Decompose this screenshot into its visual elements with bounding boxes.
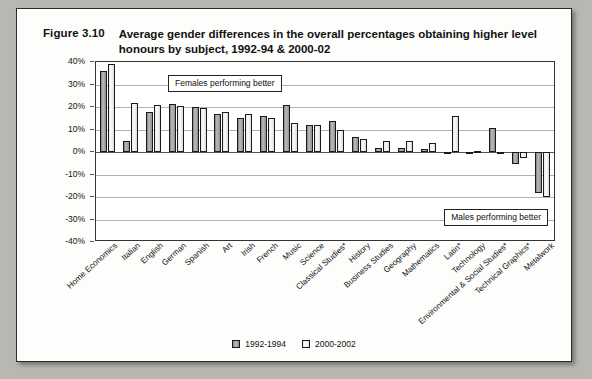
bar — [421, 149, 428, 152]
bar-group — [119, 62, 142, 240]
bar — [268, 118, 275, 152]
y-axis-tick-label: 10% — [68, 124, 85, 134]
bar — [474, 151, 481, 153]
bar-group — [371, 62, 394, 240]
legend-swatch — [302, 340, 310, 348]
bar — [131, 103, 138, 153]
bar — [444, 152, 451, 154]
y-axis-tick-mark — [90, 129, 94, 130]
bar-group — [394, 62, 417, 240]
annotation-females-performing-better: Females performing better — [168, 75, 282, 92]
figure-number: Figure 3.10 — [43, 27, 105, 39]
y-axis-tick-mark — [90, 84, 94, 85]
plot-area: Females performing better Males performi… — [95, 61, 555, 241]
chart-plot-wrapper: 40%30%20%10%0%-10%-20%-30%-40% Females p… — [57, 61, 557, 261]
bar — [154, 105, 161, 152]
y-axis-tick-label: -30% — [65, 214, 85, 224]
bar-group — [302, 62, 325, 240]
bar — [543, 152, 550, 197]
bar — [222, 112, 229, 153]
y-axis-tick-label: 30% — [68, 79, 85, 89]
bar — [383, 141, 390, 152]
annotation-males-performing-better: Males performing better — [444, 209, 548, 226]
bar — [169, 104, 176, 152]
y-axis-tick-label: -20% — [65, 191, 85, 201]
bar — [452, 116, 459, 152]
bar — [123, 141, 130, 152]
bar — [260, 116, 267, 152]
bar — [406, 141, 413, 152]
y-axis-tick-mark — [90, 174, 94, 175]
legend-item: 1992-1994 — [232, 339, 286, 349]
bar-group — [325, 62, 348, 240]
bar-group — [348, 62, 371, 240]
bar — [214, 114, 221, 152]
y-axis-tick-mark — [90, 241, 94, 242]
bar — [398, 148, 405, 153]
y-axis-tick-mark — [90, 106, 94, 107]
bar-group — [417, 62, 440, 240]
bar — [177, 106, 184, 152]
bar — [352, 137, 359, 152]
figure-card: Figure 3.10 Average gender differences i… — [16, 8, 572, 362]
bar — [146, 112, 153, 153]
bar — [314, 125, 321, 152]
legend-item: 2000-2002 — [302, 339, 356, 349]
bar — [283, 105, 290, 152]
bar — [497, 152, 504, 154]
bar — [100, 71, 107, 152]
bar — [291, 123, 298, 152]
bar — [200, 108, 207, 152]
bar — [520, 152, 527, 158]
legend-label: 1992-1994 — [245, 339, 286, 349]
legend-label: 2000-2002 — [315, 339, 356, 349]
figure-title-row: Figure 3.10 Average gender differences i… — [43, 27, 553, 57]
chart-legend: 1992-19942000-2002 — [17, 339, 571, 349]
bar — [329, 121, 336, 153]
y-axis-tick-label: -40% — [65, 236, 85, 246]
y-axis-tick-label: 20% — [68, 101, 85, 111]
bar — [466, 152, 473, 154]
bar — [429, 143, 436, 152]
bar — [360, 139, 367, 153]
y-axis-tick-mark — [90, 196, 94, 197]
y-axis-tick-mark — [90, 219, 94, 220]
y-axis: 40%30%20%10%0%-10%-20%-30%-40% — [57, 61, 89, 241]
y-axis-tick-label: 0% — [73, 146, 85, 156]
bar-group — [96, 62, 119, 240]
y-axis-tick-mark — [90, 151, 94, 152]
bar — [245, 114, 252, 152]
legend-swatch — [232, 340, 240, 348]
bar — [237, 118, 244, 152]
bar — [192, 107, 199, 152]
bar — [337, 130, 344, 153]
bar — [108, 64, 115, 152]
y-axis-tick-label: -10% — [65, 169, 85, 179]
bar — [306, 125, 313, 152]
page-title: Average gender differences in the overal… — [119, 27, 553, 57]
bar-group — [142, 62, 165, 240]
bar-group — [279, 62, 302, 240]
y-axis-tick-mark — [90, 61, 94, 62]
bar — [375, 148, 382, 153]
bar — [535, 152, 542, 193]
bar — [512, 152, 519, 164]
y-axis-tick-label: 40% — [68, 56, 85, 66]
bar — [489, 128, 496, 152]
